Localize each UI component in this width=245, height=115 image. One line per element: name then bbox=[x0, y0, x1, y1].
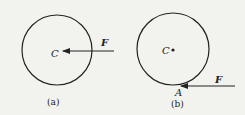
figure-b: C F A (b) bbox=[137, 13, 235, 109]
center-label-a: C bbox=[51, 48, 59, 59]
caption-a: (a) bbox=[47, 97, 59, 107]
caption-b: (b) bbox=[171, 99, 184, 109]
center-label-b: C bbox=[162, 45, 170, 56]
force-label-b: F bbox=[214, 74, 223, 85]
force-label-a: F bbox=[100, 37, 109, 48]
point-label-a: A bbox=[174, 87, 182, 98]
diagram-canvas: C F (a) C F A (b) bbox=[0, 0, 245, 115]
figure-a: C F (a) bbox=[22, 15, 114, 107]
center-dot-b bbox=[171, 48, 174, 51]
